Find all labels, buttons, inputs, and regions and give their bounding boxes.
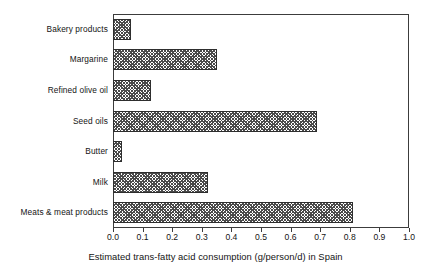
x-tick-label: 1.0	[389, 233, 429, 242]
bar	[113, 19, 131, 40]
bars-layer	[113, 14, 409, 228]
category-label: Bakery products	[47, 25, 108, 33]
category-label: Meats & meat products	[21, 208, 108, 216]
category-label: Margarine	[70, 55, 108, 63]
bar	[113, 141, 122, 162]
bar-chart-figure: Bakery productsMargarineRefined olive oi…	[0, 0, 431, 270]
category-label: Butter	[85, 147, 108, 155]
category-label: Milk	[93, 178, 108, 186]
category-label: Seed oils	[73, 117, 108, 125]
bar	[113, 202, 353, 223]
bar	[113, 49, 217, 70]
bar	[113, 172, 208, 193]
bar	[113, 80, 151, 101]
x-axis-title: Estimated trans-fatty acid consumption (…	[0, 252, 431, 261]
bar	[113, 111, 317, 132]
category-label: Refined olive oil	[48, 86, 108, 94]
category-axis-labels: Bakery productsMargarineRefined olive oi…	[0, 14, 111, 228]
